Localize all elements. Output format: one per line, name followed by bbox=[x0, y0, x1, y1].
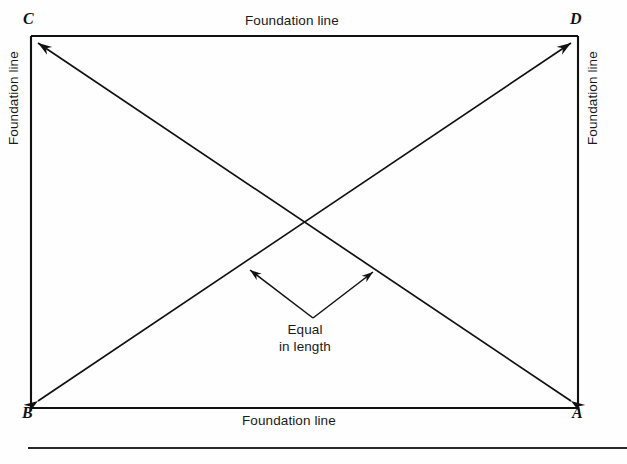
foundation-line-label-top: Foundation line bbox=[245, 13, 339, 28]
equal-in-length-annotation: Equal in length bbox=[279, 322, 331, 355]
leader-right-branch bbox=[313, 272, 373, 318]
figure-canvas: Foundation line Foundation line Foundati… bbox=[0, 0, 627, 464]
corner-label-a: A bbox=[572, 404, 583, 422]
leader-left-branch bbox=[250, 270, 313, 318]
diagram-svg bbox=[0, 0, 627, 464]
corner-label-c: C bbox=[23, 10, 34, 28]
corner-label-d: D bbox=[570, 10, 582, 28]
foundation-line-label-right: Foundation line bbox=[585, 25, 600, 145]
annotation-line-1: Equal bbox=[279, 322, 331, 339]
foundation-line-label-left: Foundation line bbox=[6, 25, 21, 145]
foundation-line-label-bottom: Foundation line bbox=[242, 413, 336, 428]
equal-length-leader bbox=[250, 270, 373, 318]
annotation-line-2: in length bbox=[279, 339, 331, 356]
corner-label-b: B bbox=[22, 404, 33, 422]
